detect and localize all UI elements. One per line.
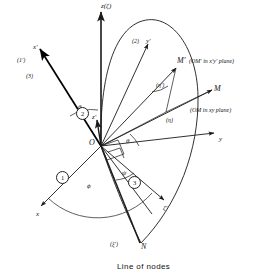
point-label-n: N xyxy=(141,243,146,251)
bracket-label-three: (3) xyxy=(26,73,33,79)
annotation-m-prime-plane: (OM′ in x′y′ plane) xyxy=(189,58,234,64)
drop-m xyxy=(166,68,176,112)
axis-label-y: y xyxy=(219,136,222,143)
axis-label-z-prime: z′ xyxy=(92,114,96,121)
bracket-label-xi-prime: (ξ′) xyxy=(110,241,118,247)
figure-caption: Line of nodes xyxy=(117,262,170,271)
axis-label-z: z(ζ) xyxy=(101,3,111,10)
angle-label-theta-right: θ xyxy=(126,138,129,145)
axis-y-prime xyxy=(101,44,148,146)
axis-label-x: x xyxy=(36,211,39,218)
ray-om-prime xyxy=(101,68,176,146)
axis-lines xyxy=(40,12,214,243)
bracket-label-eta: (η) xyxy=(166,117,173,123)
axis-x xyxy=(41,146,101,206)
axis-y xyxy=(101,133,214,146)
angle-label-psi: ψ xyxy=(122,170,126,177)
axis-label-y-prime: y′ xyxy=(146,38,151,45)
rotation-marker-3: 3 xyxy=(128,176,141,189)
arc-phi xyxy=(48,193,152,218)
point-label-m: M xyxy=(214,85,221,93)
angle-label-phi: ϕ xyxy=(87,183,91,190)
arc-theta-right xyxy=(130,134,139,146)
point-label-m-prime: M′ xyxy=(177,57,185,65)
rotation-marker-1: 1 xyxy=(56,171,69,184)
node-ray-secondary xyxy=(101,146,152,214)
axis-label-zeta-prime: ζ′ xyxy=(163,205,167,212)
axis-x-prime xyxy=(40,49,101,146)
plane-edge-xy xyxy=(101,112,166,146)
bracket-label-two: (2) xyxy=(132,38,139,44)
figure-canvas: z(ζ) x y x′ y′ z′ ζ′ O M M′ N ϕ θ θ ψ 1 … xyxy=(0,0,254,280)
point-label-origin: O xyxy=(89,139,95,147)
bracket-label-eta-prime: (η′) xyxy=(156,82,164,88)
axis-label-x-prime: x′ xyxy=(33,44,38,51)
annotation-m-plane: (OM in xy plane) xyxy=(190,107,231,113)
rotation-marker-2: 2 xyxy=(76,107,89,120)
line-of-nodes xyxy=(101,146,140,243)
bracket-label-one-prime: (1′) xyxy=(17,57,25,63)
